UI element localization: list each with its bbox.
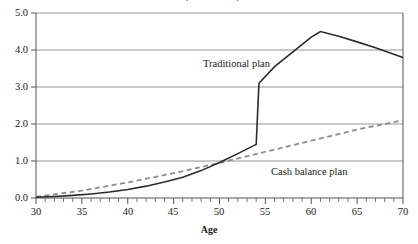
series-line-traditional bbox=[36, 32, 403, 198]
ytick-label-5: 5.0 bbox=[2, 7, 28, 18]
y-axis-ticks bbox=[31, 13, 36, 198]
xtick-label-65: 65 bbox=[345, 206, 369, 217]
xtick-label-45: 45 bbox=[161, 206, 185, 217]
y-gridlines bbox=[36, 13, 403, 161]
xtick-label-30: 30 bbox=[24, 206, 48, 217]
ytick-label-4: 4.0 bbox=[2, 44, 28, 55]
xtick-label-40: 40 bbox=[116, 206, 140, 217]
axis-lines bbox=[36, 13, 403, 198]
annotation-cash-balance-plan: Cash balance plan bbox=[271, 166, 347, 178]
ytick-label-0: 0.0 bbox=[2, 192, 28, 203]
ytick-label-1: 1.0 bbox=[2, 155, 28, 166]
xtick-label-60: 60 bbox=[299, 206, 323, 217]
series-line-cash-balance bbox=[36, 120, 403, 197]
chart-figure: Accrual pattern comparison bbox=[0, 0, 418, 244]
x-axis-title: Age bbox=[0, 224, 418, 235]
ytick-label-3: 3.0 bbox=[2, 81, 28, 92]
xtick-label-35: 35 bbox=[70, 206, 94, 217]
xtick-label-70: 70 bbox=[391, 206, 415, 217]
xtick-label-55: 55 bbox=[253, 206, 277, 217]
annotation-traditional-plan: Traditional plan bbox=[203, 58, 270, 70]
ytick-label-2: 2.0 bbox=[2, 118, 28, 129]
xtick-label-50: 50 bbox=[207, 206, 231, 217]
